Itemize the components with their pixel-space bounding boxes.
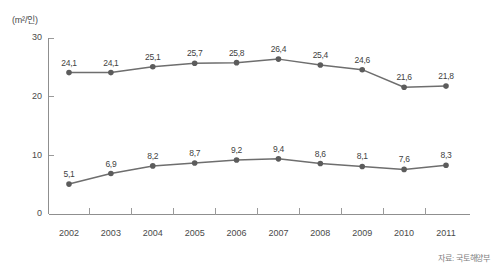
data-point [359, 67, 365, 73]
data-point-label: 25,7 [187, 48, 203, 58]
y-tick-label: 10 [32, 150, 42, 160]
data-point-label: 8,2 [147, 151, 158, 161]
x-tick-label: 2007 [268, 228, 288, 238]
data-point [150, 64, 156, 70]
x-tick-label: 2004 [143, 228, 163, 238]
data-point [150, 163, 156, 169]
data-point-label: 21,8 [438, 71, 454, 81]
data-point [401, 167, 407, 173]
x-tick-label: 2008 [310, 228, 330, 238]
data-point-label: 25,1 [145, 52, 161, 62]
data-point [276, 56, 282, 62]
data-point-label: 24,1 [61, 58, 77, 68]
y-tick-label: 20 [32, 91, 42, 101]
data-point-label: 8,7 [189, 148, 200, 158]
data-point [276, 156, 282, 162]
series-line-lower-series [69, 159, 446, 184]
x-tick-label: 2005 [185, 228, 205, 238]
data-point [359, 164, 365, 170]
data-point-label: 26,4 [271, 44, 287, 54]
line-chart-plot: 0102030 24,124,125,125,725,826,425,424,6… [0, 0, 498, 271]
data-point-label: 9,4 [273, 144, 284, 154]
x-tick-label-group: 2002200320042005200620072008200920102011 [59, 228, 456, 238]
x-tick-label: 2006 [227, 228, 247, 238]
data-point [192, 60, 198, 66]
data-point [108, 70, 114, 76]
x-tick-label: 2009 [352, 228, 372, 238]
data-point-label: 6,9 [105, 159, 116, 169]
data-point-label: 24,1 [103, 58, 119, 68]
data-series-group [66, 56, 449, 187]
x-tick-label: 2003 [101, 228, 121, 238]
y-tick-label: 30 [32, 32, 42, 42]
data-point-label: 24,6 [355, 55, 371, 65]
data-point-label: 21,6 [396, 72, 412, 82]
data-point [234, 157, 240, 163]
data-point [443, 163, 449, 169]
data-point [318, 161, 324, 167]
data-point [443, 83, 449, 89]
chart-container: (m²/인) 0102030 24,124,125,125,725,826,42… [0, 0, 498, 271]
data-point-label: 5,1 [64, 169, 75, 179]
data-point [66, 181, 72, 187]
data-point [234, 60, 240, 66]
data-point-label: 8,6 [315, 149, 326, 159]
data-point-label: 9,2 [231, 145, 242, 155]
x-tick-label: 2010 [394, 228, 414, 238]
y-axis: 0102030 [32, 32, 54, 218]
data-point-label: 8,3 [441, 150, 452, 160]
x-tick-label: 2002 [59, 228, 79, 238]
source-attribution: 자료: 국토해양부 [438, 252, 490, 263]
x-tick-label: 2011 [436, 228, 455, 238]
data-point-label: 7,6 [399, 154, 410, 164]
data-point [192, 160, 198, 166]
data-point [108, 171, 114, 177]
data-point-label: 25,4 [313, 50, 329, 60]
data-point [318, 62, 324, 68]
data-point [401, 84, 407, 90]
y-tick-label: 0 [37, 208, 42, 218]
series-line-upper-series [69, 59, 446, 87]
data-point [66, 70, 72, 76]
data-point-label: 25,8 [229, 48, 245, 58]
data-point-label: 8,1 [357, 151, 368, 161]
x-axis [49, 208, 471, 215]
